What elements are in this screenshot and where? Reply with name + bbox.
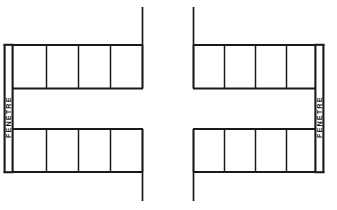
right-window-label: FENÊTRE <box>315 96 324 138</box>
left-top-row <box>13 45 143 89</box>
layout-diagram-svg: FENÊTRE <box>0 0 337 210</box>
left-bottom-row <box>13 129 143 172</box>
right-top-row <box>193 45 315 89</box>
left-window-label: FENÊTRE <box>4 96 13 138</box>
left-arrangement: FENÊTRE <box>4 7 143 201</box>
diagram-canvas: FENÊTRE <box>0 0 337 210</box>
right-arrangement: FENÊTRE <box>193 7 324 201</box>
right-bottom-row <box>193 129 315 172</box>
